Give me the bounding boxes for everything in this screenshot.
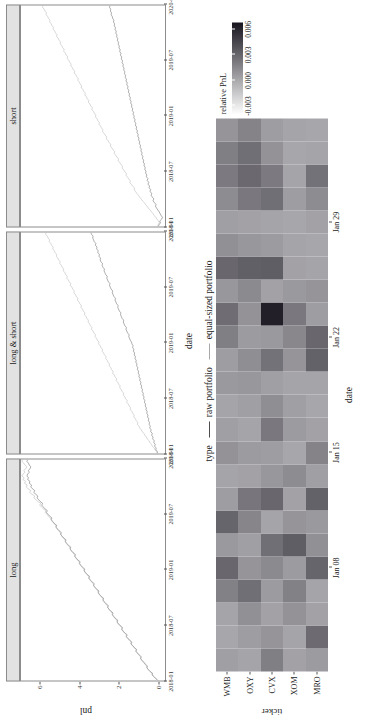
heatmap-cell[interactable] bbox=[216, 487, 238, 510]
heatmap-cell[interactable] bbox=[261, 256, 283, 279]
heatmap-cell[interactable] bbox=[216, 187, 238, 210]
heatmap-cell[interactable] bbox=[261, 210, 283, 233]
heatmap-cell[interactable] bbox=[283, 602, 305, 625]
heatmap-cell[interactable] bbox=[283, 302, 305, 325]
heatmap-cell[interactable] bbox=[216, 256, 238, 279]
heatmap-cell[interactable] bbox=[306, 533, 328, 556]
heatmap-cell[interactable] bbox=[306, 348, 328, 371]
heatmap-cell[interactable] bbox=[238, 394, 260, 417]
heatmap-cell[interactable] bbox=[283, 256, 305, 279]
heatmap-cell[interactable] bbox=[238, 187, 260, 210]
heatmap-cell[interactable] bbox=[216, 233, 238, 256]
heatmap-cell[interactable] bbox=[238, 625, 260, 648]
heatmap-cell[interactable] bbox=[238, 141, 260, 164]
heatmap-cell[interactable] bbox=[238, 371, 260, 394]
heatmap-cell[interactable] bbox=[306, 417, 328, 440]
heatmap-cell[interactable] bbox=[238, 348, 260, 371]
heatmap-cell[interactable] bbox=[261, 187, 283, 210]
heatmap-cell[interactable] bbox=[261, 625, 283, 648]
heatmap-cell[interactable] bbox=[216, 533, 238, 556]
heatmap-cell[interactable] bbox=[261, 233, 283, 256]
heatmap-cell[interactable] bbox=[283, 210, 305, 233]
heatmap-cell[interactable] bbox=[216, 510, 238, 533]
heatmap-cell[interactable] bbox=[261, 602, 283, 625]
heatmap-cell[interactable] bbox=[283, 533, 305, 556]
heatmap-cell[interactable] bbox=[216, 210, 238, 233]
heatmap-cell[interactable] bbox=[306, 164, 328, 187]
heatmap-cell[interactable] bbox=[238, 233, 260, 256]
heatmap-cell[interactable] bbox=[306, 394, 328, 417]
heatmap-cell[interactable] bbox=[283, 579, 305, 602]
heatmap-cell[interactable] bbox=[283, 371, 305, 394]
heatmap-cell[interactable] bbox=[238, 417, 260, 440]
heatmap-cell[interactable] bbox=[306, 579, 328, 602]
heatmap-cell[interactable] bbox=[283, 441, 305, 464]
heatmap-cell[interactable] bbox=[216, 164, 238, 187]
heatmap-cell[interactable] bbox=[216, 371, 238, 394]
heatmap-cell[interactable] bbox=[306, 625, 328, 648]
heatmap-cell[interactable] bbox=[283, 417, 305, 440]
heatmap-cell[interactable] bbox=[238, 210, 260, 233]
heatmap-cell[interactable] bbox=[306, 233, 328, 256]
heatmap-cell[interactable] bbox=[283, 510, 305, 533]
heatmap-cell[interactable] bbox=[238, 533, 260, 556]
heatmap-cell[interactable] bbox=[306, 302, 328, 325]
heatmap-cell[interactable] bbox=[283, 348, 305, 371]
heatmap-cell[interactable] bbox=[306, 141, 328, 164]
heatmap-cell[interactable] bbox=[238, 279, 260, 302]
heatmap-cell[interactable] bbox=[238, 510, 260, 533]
heatmap-cell[interactable] bbox=[306, 325, 328, 348]
heatmap-cell[interactable] bbox=[306, 464, 328, 487]
heatmap-cell[interactable] bbox=[216, 118, 238, 141]
heatmap-cell[interactable] bbox=[238, 464, 260, 487]
heatmap-cell[interactable] bbox=[283, 187, 305, 210]
heatmap-cell[interactable] bbox=[283, 556, 305, 579]
heatmap-cell[interactable] bbox=[216, 625, 238, 648]
heatmap-cell[interactable] bbox=[238, 118, 260, 141]
heatmap-cell[interactable] bbox=[238, 487, 260, 510]
heatmap-cell[interactable] bbox=[216, 441, 238, 464]
heatmap-cell[interactable] bbox=[261, 510, 283, 533]
heatmap-cell[interactable] bbox=[261, 164, 283, 187]
heatmap-cell[interactable] bbox=[261, 533, 283, 556]
heatmap-cell[interactable] bbox=[261, 648, 283, 671]
heatmap-cell[interactable] bbox=[238, 256, 260, 279]
heatmap-cell[interactable] bbox=[261, 371, 283, 394]
heatmap-cell[interactable] bbox=[261, 464, 283, 487]
heatmap-cell[interactable] bbox=[261, 417, 283, 440]
heatmap-cell[interactable] bbox=[283, 394, 305, 417]
heatmap-cell[interactable] bbox=[283, 164, 305, 187]
heatmap-cell[interactable] bbox=[216, 302, 238, 325]
heatmap-cell[interactable] bbox=[261, 302, 283, 325]
heatmap-cell[interactable] bbox=[261, 279, 283, 302]
heatmap-cell[interactable] bbox=[306, 556, 328, 579]
heatmap-cell[interactable] bbox=[216, 602, 238, 625]
heatmap-cell[interactable] bbox=[261, 441, 283, 464]
heatmap-cell[interactable] bbox=[306, 648, 328, 671]
heatmap-cell[interactable] bbox=[306, 371, 328, 394]
heatmap-cell[interactable] bbox=[283, 487, 305, 510]
heatmap-cell[interactable] bbox=[261, 487, 283, 510]
heatmap-cell[interactable] bbox=[306, 602, 328, 625]
heatmap-cell[interactable] bbox=[238, 602, 260, 625]
heatmap-cell[interactable] bbox=[306, 210, 328, 233]
heatmap-cell[interactable] bbox=[216, 325, 238, 348]
heatmap-cell[interactable] bbox=[283, 625, 305, 648]
heatmap-cell[interactable] bbox=[238, 648, 260, 671]
heatmap-cell[interactable] bbox=[216, 556, 238, 579]
heatmap-cell[interactable] bbox=[306, 441, 328, 464]
heatmap-cell[interactable] bbox=[216, 141, 238, 164]
heatmap-cell[interactable] bbox=[283, 141, 305, 164]
heatmap-cell[interactable] bbox=[238, 302, 260, 325]
heatmap-cell[interactable] bbox=[261, 118, 283, 141]
heatmap-cell[interactable] bbox=[283, 325, 305, 348]
heatmap-cell[interactable] bbox=[261, 348, 283, 371]
heatmap-cell[interactable] bbox=[261, 325, 283, 348]
heatmap-cell[interactable] bbox=[306, 510, 328, 533]
heatmap-cell[interactable] bbox=[283, 233, 305, 256]
heatmap-cell[interactable] bbox=[306, 118, 328, 141]
heatmap-cell[interactable] bbox=[238, 579, 260, 602]
heatmap-cell[interactable] bbox=[216, 348, 238, 371]
heatmap-cell[interactable] bbox=[216, 417, 238, 440]
heatmap-cell[interactable] bbox=[306, 256, 328, 279]
